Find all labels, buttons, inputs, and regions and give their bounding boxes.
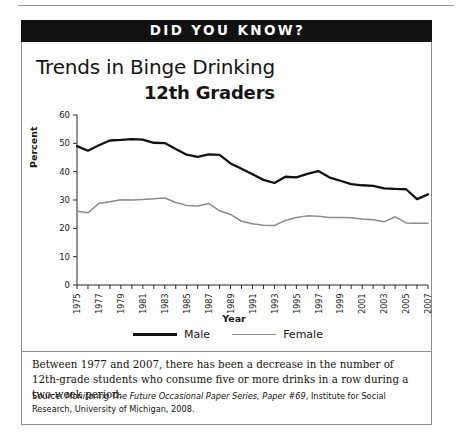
chart-legend: Male Female <box>0 328 456 341</box>
svg-text:2003: 2003 <box>380 294 389 314</box>
svg-text:1977: 1977 <box>95 294 104 314</box>
banner-title: DID YOU KNOW? <box>148 24 306 38</box>
svg-text:2001: 2001 <box>358 294 367 314</box>
svg-text:1989: 1989 <box>227 294 236 314</box>
legend-swatch-male-icon <box>133 333 177 336</box>
svg-text:30: 30 <box>59 195 70 205</box>
source-title: Monitoring The Future Occasional Paper S… <box>65 391 305 401</box>
svg-text:1993: 1993 <box>271 294 280 314</box>
svg-text:20: 20 <box>59 223 70 233</box>
x-axis-label-text: Year <box>222 313 246 324</box>
svg-text:1975: 1975 <box>73 294 82 314</box>
svg-text:2005: 2005 <box>402 294 411 314</box>
svg-text:1981: 1981 <box>139 294 148 314</box>
legend-swatch-female-icon <box>232 334 276 336</box>
svg-text:10: 10 <box>59 252 70 262</box>
source-prefix: Source: <box>32 391 65 401</box>
svg-text:60: 60 <box>59 110 70 120</box>
svg-text:40: 40 <box>59 167 70 177</box>
svg-text:1995: 1995 <box>293 294 302 314</box>
source-text: Source: Monitoring The Future Occasional… <box>32 390 427 415</box>
x-axis-label: Year <box>0 313 456 324</box>
legend-label-female: Female <box>283 328 323 341</box>
svg-text:50: 50 <box>59 138 70 148</box>
caption-divider <box>22 351 431 352</box>
did-you-know-infographic: DID YOU KNOW? Trends in Binge Drinking 1… <box>0 0 456 441</box>
legend-item-female: Female <box>232 328 323 341</box>
line-chart: 0102030405060197519771979198119831985198… <box>21 104 432 340</box>
svg-text:1983: 1983 <box>161 294 170 314</box>
svg-text:1999: 1999 <box>336 294 345 314</box>
page-top-rule <box>18 5 454 6</box>
legend-item-male: Male <box>133 328 210 341</box>
svg-text:1979: 1979 <box>117 294 126 314</box>
svg-text:1987: 1987 <box>205 294 214 314</box>
chart-title-line2: 12th Graders <box>144 82 275 103</box>
chart-title-line1: Trends in Binge Drinking <box>36 55 275 79</box>
svg-text:0: 0 <box>65 280 70 290</box>
svg-text:2007: 2007 <box>424 294 432 314</box>
svg-text:1997: 1997 <box>315 294 324 314</box>
chart-svg: 0102030405060197519771979198119831985198… <box>21 104 432 340</box>
svg-text:1991: 1991 <box>249 294 258 314</box>
banner: DID YOU KNOW? <box>21 20 432 42</box>
legend-label-male: Male <box>184 328 210 341</box>
svg-text:1985: 1985 <box>183 294 192 314</box>
